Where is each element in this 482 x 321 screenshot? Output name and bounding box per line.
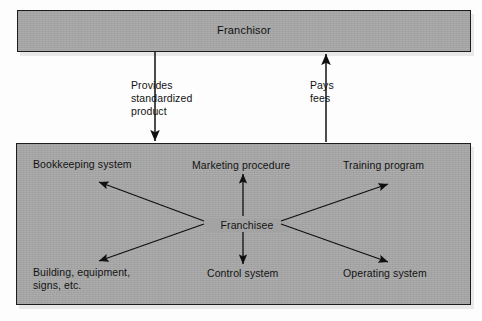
control-system-label: Control system (207, 267, 278, 280)
operating-system-label: Operating system (343, 267, 427, 280)
building-equipment-signs-label: Building, equipment, signs, etc. (33, 266, 130, 292)
diagram-canvas: Franchisor Provides standardized product… (0, 0, 482, 321)
marketing-procedure-label: Marketing procedure (192, 159, 290, 172)
provides-standardized-product-label: Provides standardized product (131, 79, 192, 118)
franchisor-label: Franchisor (18, 24, 470, 36)
bookkeeping-system-label: Bookkeeping system (33, 158, 132, 171)
franchisor-box[interactable]: Franchisor (17, 10, 471, 52)
pays-fees-label: Pays fees (310, 79, 334, 105)
training-program-label: Training program (343, 159, 424, 172)
franchisee-center-label: Franchisee (205, 218, 289, 233)
